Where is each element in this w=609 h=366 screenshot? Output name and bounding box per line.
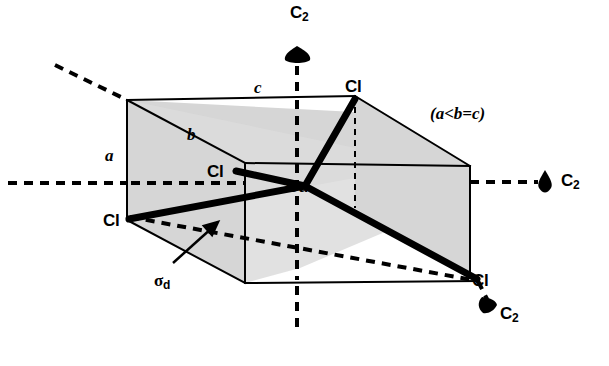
c2-diagonal-axis-line-upper (55, 65, 127, 100)
sigma-d-label: σd (154, 272, 170, 291)
sigma-subscript: d (163, 278, 170, 292)
symmetry-diagram-figure: Cl Cl Cu Cl Cl a b c σd C2 C2 C2 (a<b=c) (0, 0, 609, 366)
c2-diagonal-glyph: C (500, 304, 512, 323)
c2-horizontal-glyph: C (561, 171, 573, 190)
box-edge-bottom-front (245, 281, 478, 283)
edge-label-a: a (105, 147, 113, 164)
c2-vertical-lens-marker (285, 46, 310, 63)
c2-vertical-label: C2 (290, 4, 309, 23)
sigma-d-plane-right-face (355, 96, 470, 278)
atom-label-cl-lower-right: Cl (472, 272, 489, 289)
atom-label-cl-lower-left: Cl (103, 212, 120, 229)
c2-horizontal-label: C2 (561, 172, 580, 191)
c2-diagonal-label: C2 (500, 305, 519, 324)
atom-label-cl-top-right: Cl (345, 78, 362, 95)
atom-label-cu-center: Cu (286, 178, 308, 195)
relation-note: (a<b=c) (430, 105, 485, 122)
c2-vertical-subscript: 2 (302, 10, 308, 24)
c2-horizontal-subscript: 2 (573, 178, 579, 192)
edge-label-b: b (187, 126, 195, 143)
c2-diagonal-lens-marker (479, 297, 497, 313)
box-edge-top-back (127, 96, 355, 100)
c2-diagonal-subscript: 2 (512, 311, 518, 325)
c2-vertical-glyph: C (290, 3, 302, 22)
edge-label-c: c (254, 79, 261, 96)
atom-label-cl-upper-left: Cl (207, 163, 224, 180)
c2-horizontal-lens-marker (538, 170, 552, 193)
sigma-glyph: σ (154, 271, 163, 290)
